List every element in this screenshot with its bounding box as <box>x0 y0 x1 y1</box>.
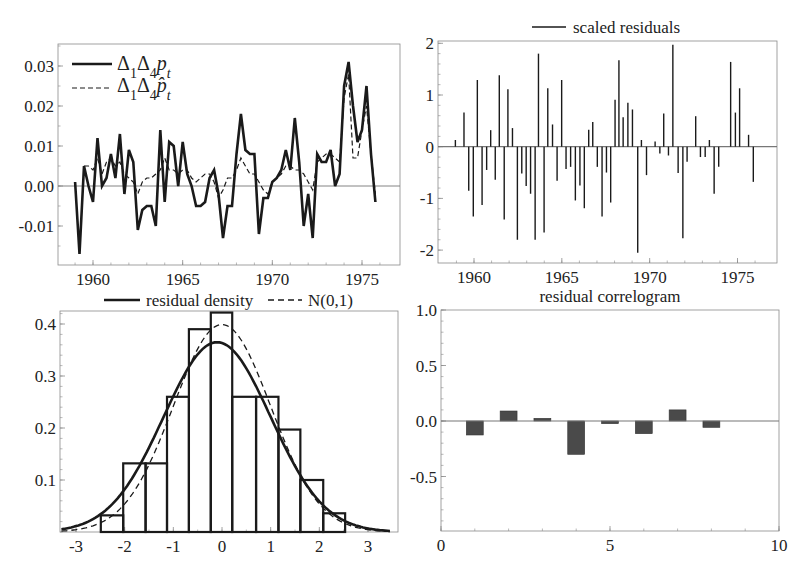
timeseries-xtick-label: 1960 <box>76 270 110 289</box>
density-xtick-label: -2 <box>118 537 132 556</box>
density-xtick-label: 0 <box>218 537 227 556</box>
correlogram-bar <box>669 410 686 421</box>
correlogram-bar <box>466 421 483 435</box>
residuals-ytick-label: -2 <box>420 241 434 260</box>
density-ytick-label: 0.3 <box>35 367 56 386</box>
correlogram-bar <box>568 421 585 454</box>
histogram-bar <box>256 397 278 532</box>
correlogram-ytick-label: 1.0 <box>416 301 437 320</box>
density-xtick-label: 3 <box>364 537 373 556</box>
density-ytick-label: 0.4 <box>35 315 57 334</box>
timeseries-xtick-label: 1970 <box>255 270 289 289</box>
residuals-ytick-label: 1 <box>426 86 435 105</box>
density-ytick-label: 0.1 <box>35 471 56 490</box>
timeseries-panel: 0.030.020.010.00-0.011960196519701975Δ1Δ… <box>19 44 400 289</box>
correlogram-bar <box>703 421 720 427</box>
residuals-xtick-label: 1975 <box>721 268 755 287</box>
timeseries-ytick-label: -0.01 <box>19 217 54 236</box>
figure-canvas: 0.030.020.010.00-0.011960196519701975Δ1Δ… <box>0 0 803 570</box>
residuals-xtick-label: 1970 <box>633 268 667 287</box>
timeseries-ytick-label: 0.01 <box>24 137 54 156</box>
density-frame <box>60 311 398 532</box>
normal-density-curve <box>61 325 390 532</box>
correlogram-xtick-label: 5 <box>606 536 615 555</box>
figure: 0.030.020.010.00-0.011960196519701975Δ1Δ… <box>0 0 803 570</box>
timeseries-ytick-label: 0.02 <box>24 97 54 116</box>
legend-dashed-label: Δ1Δ4p̂t <box>117 74 172 103</box>
density-ytick-label: 0.2 <box>35 419 56 438</box>
correlogram-ytick-label: 0.5 <box>416 357 437 376</box>
correlogram-xtick-label: 0 <box>437 536 446 555</box>
residuals-ytick-label: -1 <box>420 189 434 208</box>
residual-density-panel: 0.40.30.20.1-3-2-10123residual densityN(… <box>35 291 398 556</box>
density-legend-dashed-label: N(0,1) <box>308 291 353 310</box>
density-xtick-label: 2 <box>315 537 324 556</box>
histogram-bar <box>167 397 189 532</box>
residuals-frame <box>438 41 777 263</box>
scaled-residuals-panel: 210-1-21960196519701975scaled residuals <box>420 18 777 287</box>
timeseries-xtick-label: 1975 <box>345 270 379 289</box>
density-xtick-label: -1 <box>166 537 180 556</box>
residuals-xtick-label: 1965 <box>545 268 579 287</box>
residuals-xtick-label: 1960 <box>457 268 491 287</box>
residual-correlogram-panel: 1.00.50.0-0.50510residual correlogram <box>410 287 787 555</box>
correlogram-ytick-label: 0.0 <box>416 412 437 431</box>
density-xtick-label: -3 <box>69 537 83 556</box>
timeseries-ytick-label: 0.00 <box>24 177 54 196</box>
density-legend-solid-label: residual density <box>146 291 254 310</box>
correlogram-ytick-label: -0.5 <box>410 468 437 487</box>
histogram-bar <box>101 515 123 532</box>
timeseries-xtick-label: 1965 <box>166 270 200 289</box>
correlogram-xtick-label: 10 <box>771 536 788 555</box>
residuals-ytick-label: 0 <box>426 138 435 157</box>
residuals-ytick-label: 2 <box>426 34 435 53</box>
residuals-legend-label: scaled residuals <box>573 18 680 37</box>
residual-density-curve <box>61 342 390 531</box>
timeseries-ytick-label: 0.03 <box>24 57 54 76</box>
correlogram-bar <box>500 411 517 421</box>
density-xtick-label: 1 <box>266 537 275 556</box>
histogram-bar <box>146 463 167 532</box>
histogram-bar <box>232 397 256 532</box>
correlogram-bar <box>635 421 652 434</box>
correlogram-title: residual correlogram <box>539 287 680 306</box>
histogram-bar <box>278 430 300 532</box>
histogram-bar <box>300 480 323 532</box>
